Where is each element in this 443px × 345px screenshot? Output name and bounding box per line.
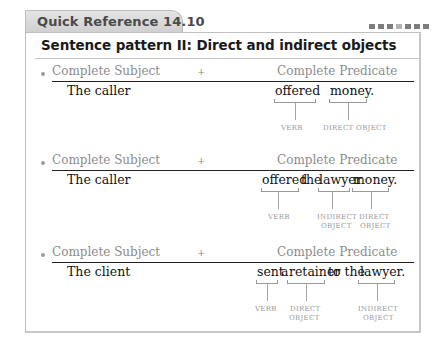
label-verb: VERB <box>281 124 303 133</box>
connector-line <box>278 192 279 209</box>
dot-icon <box>387 24 393 29</box>
subject-text: The caller <box>67 172 131 187</box>
quick-reference-tab: Quick Reference 14.10 <box>25 10 183 33</box>
word-verb: offered <box>275 83 320 98</box>
plus-sign: + <box>197 155 205 166</box>
dot-icon <box>378 24 384 29</box>
title-divider <box>35 58 420 59</box>
connector-line <box>332 192 333 209</box>
connector-line <box>267 284 268 301</box>
predicate-header: Complete Predicate <box>277 153 397 167</box>
connector-line <box>348 103 349 120</box>
dot-icon <box>396 24 402 29</box>
subject-header: Complete Subject <box>52 64 160 78</box>
bracket <box>318 188 350 192</box>
word-direct-object: money. <box>330 83 374 98</box>
word-verb: sent <box>257 264 284 279</box>
label-object: OBJECT <box>360 222 391 231</box>
divider-rule <box>52 170 414 171</box>
label-indirect: INDIRECT <box>358 305 398 314</box>
dot-icon <box>414 24 420 29</box>
bracket <box>261 188 299 192</box>
word-direct-object: money. <box>353 172 397 187</box>
label-indirect: INDIRECT <box>317 213 357 222</box>
label-object: OBJECT <box>289 314 320 323</box>
connector-line <box>306 284 307 301</box>
label-object: OBJECT <box>363 314 394 323</box>
label-object: OBJECT <box>321 222 352 231</box>
dot-icon <box>369 24 375 29</box>
subject-text: The caller <box>67 83 131 98</box>
predicate-header: Complete Predicate <box>277 245 397 259</box>
word-article: a <box>281 264 288 279</box>
label-verb: VERB <box>255 305 277 314</box>
connector-line <box>371 192 372 209</box>
label-direct: DIRECT <box>290 305 321 314</box>
divider-rule <box>52 262 414 263</box>
label-direct: DIRECT <box>359 213 390 222</box>
predicate-header: Complete Predicate <box>277 64 397 78</box>
bullet-icon <box>41 72 45 76</box>
label-verb: VERB <box>268 213 290 222</box>
decorative-dots <box>369 24 429 29</box>
connector-line <box>377 284 378 301</box>
dot-icon <box>423 24 429 29</box>
bullet-icon <box>41 161 45 165</box>
connector-line <box>295 103 296 120</box>
bullet-icon <box>41 253 45 257</box>
subject-text: The client <box>67 264 130 279</box>
plus-sign: + <box>197 66 205 77</box>
tab-label: Quick Reference 14.10 <box>37 14 205 29</box>
subject-header: Complete Subject <box>52 153 160 167</box>
plus-sign: + <box>197 247 205 258</box>
divider-rule <box>52 81 414 82</box>
dot-icon <box>405 24 411 29</box>
label-direct-object: DIRECT OBJECT <box>323 124 387 133</box>
section-title: Sentence pattern II: Direct and indirect… <box>41 37 396 53</box>
subject-header: Complete Subject <box>52 245 160 259</box>
word-indirect-object: lawyer. <box>360 264 405 279</box>
